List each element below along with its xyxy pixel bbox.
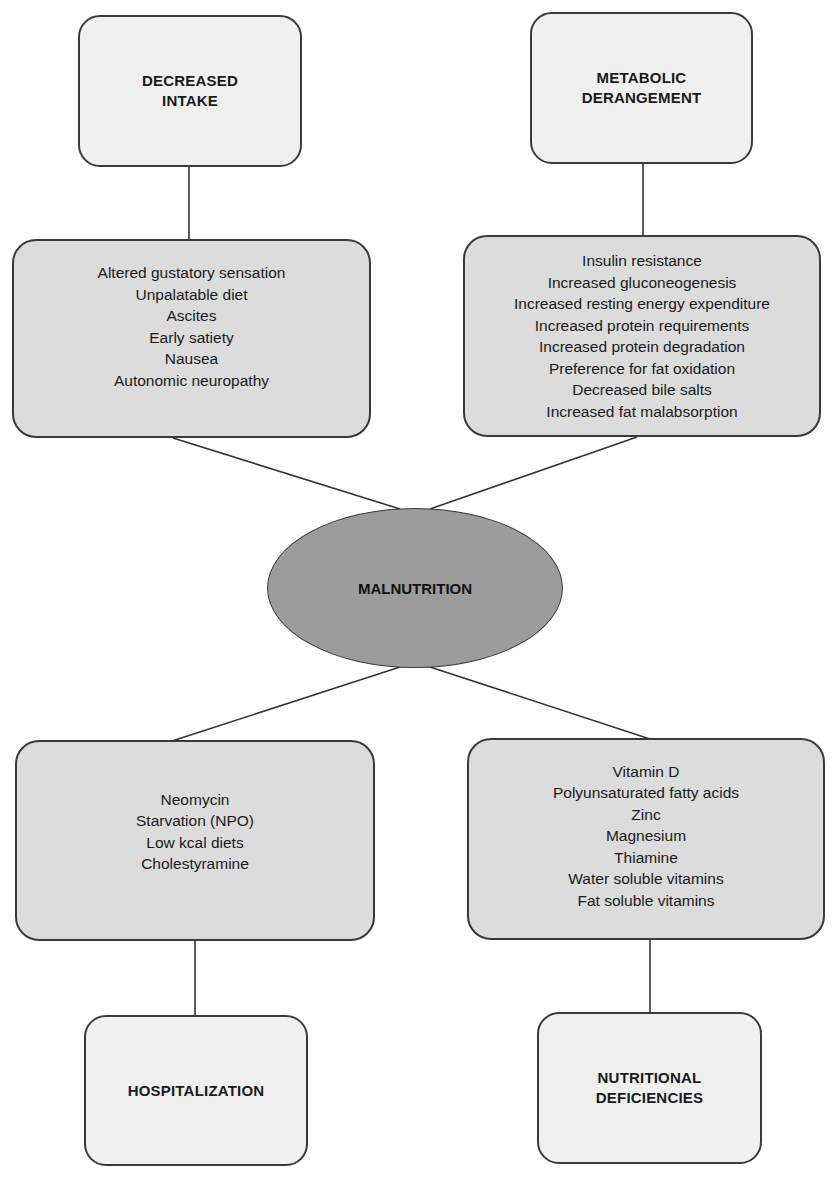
center-label: MALNUTRITION: [358, 580, 472, 597]
list-item: Unpalatable diet: [98, 284, 286, 306]
list-item: Decreased bile salts: [514, 379, 770, 401]
list-item: Vitamin D: [553, 761, 739, 783]
list-item: Autonomic neuropathy: [98, 370, 286, 392]
connector-decreased-intake-to-center: [173, 438, 400, 509]
list-item: Insulin resistance: [514, 250, 770, 272]
list-item: Preference for fat oxidation: [514, 358, 770, 380]
list-hospitalization: Neomycin Starvation (NPO) Low kcal diets…: [136, 789, 254, 875]
list-metabolic-derangement: Insulin resistance Increased gluconeogen…: [514, 250, 770, 422]
list-item: Increased protein requirements: [514, 315, 770, 337]
list-item: Low kcal diets: [136, 832, 254, 854]
list-nutritional-deficiencies: Vitamin D Polyunsaturated fatty acids Zi…: [553, 761, 739, 912]
connector-center-to-deficiencies: [430, 667, 650, 739]
list-item: Altered gustatory sensation: [98, 262, 286, 284]
header-title-metabolic-derangement: METABOLIC DERANGEMENT: [582, 68, 702, 108]
list-item: Polyunsaturated fatty acids: [553, 782, 739, 804]
connector-center-to-hospitalization: [172, 667, 400, 741]
list-item: Cholestyramine: [136, 853, 254, 875]
header-title-decreased-intake: DECREASED INTAKE: [142, 71, 238, 111]
list-item: Nausea: [98, 348, 286, 370]
list-item: Zinc: [553, 804, 739, 826]
list-item: Neomycin: [136, 789, 254, 811]
center-node-malnutrition: MALNUTRITION: [267, 508, 563, 668]
detail-box-hospitalization: Neomycin Starvation (NPO) Low kcal diets…: [15, 740, 375, 941]
detail-box-nutritional-deficiencies: Vitamin D Polyunsaturated fatty acids Zi…: [467, 738, 825, 940]
header-box-hospitalization: HOSPITALIZATION: [84, 1015, 308, 1166]
list-item: Thiamine: [553, 847, 739, 869]
detail-box-decreased-intake: Altered gustatory sensation Unpalatable …: [12, 239, 371, 438]
connector-metabolic-to-center: [430, 437, 637, 509]
list-item: Increased fat malabsorption: [514, 401, 770, 423]
list-item: Magnesium: [553, 825, 739, 847]
header-box-metabolic-derangement: METABOLIC DERANGEMENT: [530, 12, 753, 164]
list-item: Increased protein degradation: [514, 336, 770, 358]
list-item: Starvation (NPO): [136, 810, 254, 832]
header-box-nutritional-deficiencies: NUTRITIONAL DEFICIENCIES: [537, 1012, 762, 1164]
detail-box-metabolic-derangement: Insulin resistance Increased gluconeogen…: [463, 235, 821, 437]
header-title-nutritional-deficiencies: NUTRITIONAL DEFICIENCIES: [596, 1068, 703, 1108]
list-item: Increased resting energy expenditure: [514, 293, 770, 315]
header-title-hospitalization: HOSPITALIZATION: [128, 1081, 265, 1101]
list-item: Water soluble vitamins: [553, 868, 739, 890]
list-item: Early satiety: [98, 327, 286, 349]
list-item: Ascites: [98, 305, 286, 327]
list-item: Fat soluble vitamins: [553, 890, 739, 912]
list-item: Increased gluconeogenesis: [514, 272, 770, 294]
list-decreased-intake: Altered gustatory sensation Unpalatable …: [98, 262, 286, 391]
header-box-decreased-intake: DECREASED INTAKE: [78, 15, 302, 167]
